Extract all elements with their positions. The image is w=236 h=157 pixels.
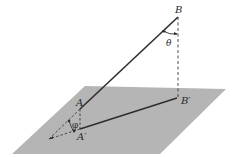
label-a-prime: A′: [76, 131, 87, 142]
projection-diagram: B B′ A A′ θ φ: [0, 0, 236, 157]
label-theta: θ: [166, 38, 172, 48]
horizontal-plane: [12, 86, 226, 154]
label-b: B: [174, 4, 182, 15]
label-phi: φ: [72, 120, 78, 130]
label-a: A: [75, 97, 83, 108]
phi-arrowhead-top: [68, 120, 71, 123]
label-b-prime: B′: [180, 95, 191, 106]
